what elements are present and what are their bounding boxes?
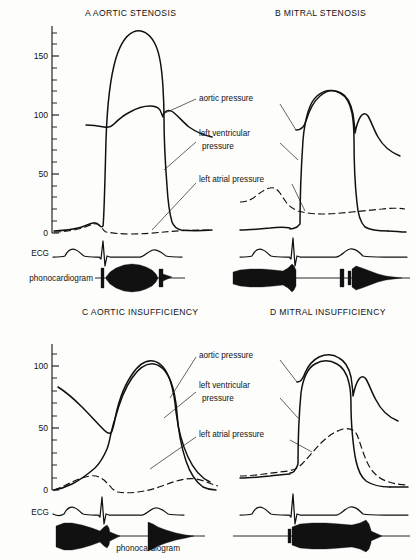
figure-canvas: A AORTIC STENOSIS B MITRAL STENOSIS C AO… [0, 0, 417, 559]
panel-d-phono-trace [288, 520, 382, 552]
label-aortic-pressure-bottom: aortic pressure [199, 351, 254, 360]
ecg-label-bottom: ECG [31, 508, 49, 517]
panel-c-title: C AORTIC INSUFFICIENCY [82, 307, 198, 317]
ecg-label-top: ECG [31, 249, 49, 258]
axis-tick-0-top: 0 [43, 228, 48, 238]
label-left-ventricular-bottom-line2: pressure [202, 394, 234, 403]
cardiac-pressure-tracing-figure: A AORTIC STENOSIS B MITRAL STENOSIS C AO… [0, 0, 417, 559]
panel-a-title: A AORTIC STENOSIS [85, 8, 176, 18]
axis-tick-100-bottom: 100 [34, 361, 49, 371]
axis-tick-150-top: 150 [34, 51, 49, 61]
axis-tick-50-bottom: 50 [38, 423, 48, 433]
label-left-ventricular-top-line1: left ventricular [199, 129, 250, 138]
axis-tick-50-top: 50 [38, 169, 48, 179]
axis-tick-0-bottom: 0 [43, 485, 48, 495]
label-left-ventricular-top-line2: pressure [202, 142, 234, 151]
label-left-atrial-pressure-top: left atrial pressure [199, 175, 265, 184]
phono-label-top: phonocardiogram [29, 274, 93, 283]
label-left-ventricular-bottom-line1: left ventricular [199, 381, 250, 390]
label-aortic-pressure-top: aortic pressure [199, 94, 254, 103]
panel-d-title: D MITRAL INSUFFICIENCY [270, 307, 386, 317]
panel-b-title: B MITRAL STENOSIS [275, 8, 366, 18]
axis-tick-100-top: 100 [34, 110, 49, 120]
label-left-atrial-pressure-bottom: left atrial pressure [199, 430, 265, 439]
